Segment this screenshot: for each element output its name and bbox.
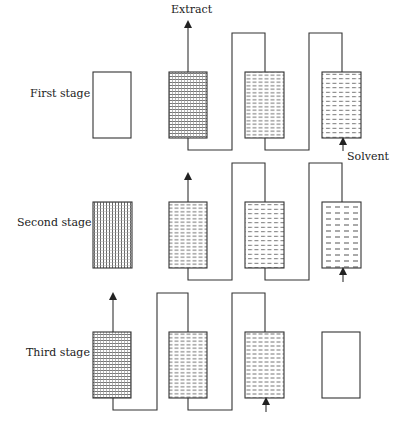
stage-1-label: First stage [30, 87, 90, 100]
stage-1-group [93, 24, 361, 151]
stage-2-column-1 [93, 202, 132, 268]
stage-3-label: Third stage [26, 346, 90, 359]
stage-3-column-2 [169, 332, 207, 398]
stage-1-column-2 [169, 72, 207, 138]
stage-2-column-3 [245, 202, 284, 268]
solvent-label: Solvent [347, 150, 389, 163]
extraction-diagram [0, 0, 401, 428]
stage-2-column-2 [169, 202, 207, 268]
stage-1-column-4 [322, 72, 361, 138]
stage-2-column-4 [322, 202, 361, 268]
stage-2-label: Second stage [17, 216, 92, 229]
stage-3-column-3 [245, 332, 284, 398]
stage-1-column-1 [93, 72, 131, 138]
stage-3-group [93, 293, 360, 412]
stage-2-group [93, 163, 361, 282]
stage-3-column-1 [93, 332, 131, 398]
extract-label: Extract [171, 3, 212, 16]
stage-3-column-4 [322, 332, 360, 398]
stage-1-column-3 [245, 72, 284, 138]
